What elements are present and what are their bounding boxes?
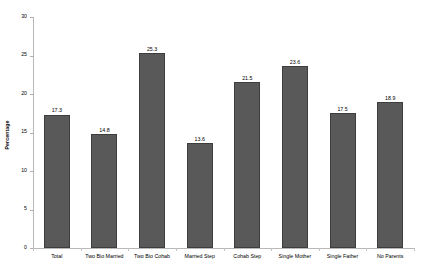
bar: 21.5 <box>234 82 260 248</box>
y-axis-tick-label: 5 <box>24 205 27 211</box>
bar: 23.6 <box>282 66 308 248</box>
x-axis-label: Single Mother <box>279 253 312 259</box>
x-axis-tick <box>414 248 415 251</box>
x-axis-tick <box>271 248 272 251</box>
x-axis-tick <box>319 248 320 251</box>
plot-area: 051015202530 17.314.825.313.621.523.617.… <box>33 17 414 248</box>
x-axis-tick <box>81 248 82 251</box>
y-axis-tick: 20 <box>30 94 34 95</box>
bar-value-label: 21.5 <box>242 75 252 81</box>
y-axis-tick-label: 15 <box>21 128 27 134</box>
x-axis-label: Two Bio Cohab <box>134 253 170 259</box>
x-axis-tick <box>176 248 177 251</box>
bar: 18.9 <box>377 102 403 248</box>
y-axis-tick: 15 <box>30 133 34 134</box>
y-axis-tick: 25 <box>30 56 34 57</box>
bar-value-label: 23.6 <box>290 59 300 65</box>
bar-value-label: 17.3 <box>52 107 62 113</box>
bar: 17.5 <box>330 113 356 248</box>
y-axis-tick: 10 <box>30 171 34 172</box>
y-axis-tick-label: 20 <box>21 90 27 96</box>
x-axis-tick <box>128 248 129 251</box>
x-axis-tick <box>366 248 367 251</box>
bar-value-label: 25.3 <box>147 46 157 52</box>
bar: 13.6 <box>187 143 213 248</box>
y-axis-title: Percentage <box>0 0 14 270</box>
bar: 17.3 <box>44 115 70 248</box>
y-axis-tick: 30 <box>30 17 34 18</box>
x-axis-label: Single Father <box>327 253 359 259</box>
bar-chart: Percentage 051015202530 17.314.825.313.6… <box>0 0 422 270</box>
x-axis-label: Two Bio Married <box>85 253 123 259</box>
x-axis-label: No Parents <box>377 253 404 259</box>
y-axis-tick-label: 30 <box>21 13 27 19</box>
x-axis-label: Total <box>51 253 62 259</box>
y-axis-tick-label: 0 <box>24 244 27 250</box>
bar-value-label: 14.8 <box>99 127 109 133</box>
x-axis-label: Cohab Step <box>233 253 261 259</box>
bar-value-label: 17.5 <box>337 106 347 112</box>
bar: 14.8 <box>91 134 117 248</box>
y-axis-tick-label: 25 <box>21 51 27 57</box>
bar-value-label: 13.6 <box>195 136 205 142</box>
bar-value-label: 18.9 <box>385 95 395 101</box>
bar: 25.3 <box>139 53 165 248</box>
y-axis-tick: 5 <box>30 210 34 211</box>
x-axis-tick <box>33 248 34 251</box>
x-axis-label: Married Step <box>185 253 215 259</box>
x-axis-tick <box>224 248 225 251</box>
y-axis-tick-label: 10 <box>21 167 27 173</box>
